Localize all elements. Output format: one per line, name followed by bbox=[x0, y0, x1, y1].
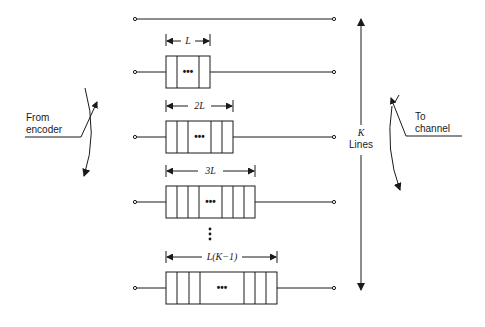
register-ellipsis: ••• bbox=[205, 196, 216, 207]
delay-line-1: ••• L bbox=[133, 34, 335, 88]
delay-label: L bbox=[184, 35, 191, 46]
register-ellipsis: ••• bbox=[194, 131, 205, 142]
vertical-ellipsis bbox=[209, 228, 212, 241]
output-terminal bbox=[332, 70, 335, 73]
from-label: From bbox=[26, 112, 49, 123]
output-commutator: To channel bbox=[390, 95, 462, 190]
encoder-label: encoder bbox=[26, 124, 63, 135]
delay-label: L(K−1) bbox=[206, 251, 238, 263]
delay-label: 2L bbox=[194, 100, 205, 111]
lines-label: Lines bbox=[349, 139, 373, 150]
output-terminal bbox=[332, 200, 335, 203]
register-ellipsis: ••• bbox=[217, 282, 228, 293]
input-terminal bbox=[133, 200, 136, 203]
output-terminal bbox=[332, 286, 335, 289]
delay-line-2: ••• 2L bbox=[133, 100, 335, 153]
input-terminal bbox=[133, 70, 136, 73]
input-terminal bbox=[133, 286, 136, 289]
k-label: K bbox=[357, 127, 366, 138]
input-commutator: From encoder bbox=[25, 88, 97, 176]
input-terminal bbox=[133, 17, 136, 20]
input-terminal bbox=[133, 135, 136, 138]
delay-line-0 bbox=[133, 17, 335, 20]
register-ellipsis: ••• bbox=[183, 66, 194, 77]
channel-label: channel bbox=[415, 123, 450, 134]
delay-line-4: ••• L(K−1) bbox=[133, 251, 335, 304]
output-terminal bbox=[332, 135, 335, 138]
to-label: To bbox=[415, 111, 426, 122]
output-terminal bbox=[332, 17, 335, 20]
delay-label: 3L bbox=[204, 165, 216, 176]
interleaver-diagram: ••• L ••• 2L ••• bbox=[0, 0, 485, 327]
delay-line-3: ••• 3L bbox=[133, 165, 335, 218]
k-lines-indicator: K Lines bbox=[349, 19, 373, 290]
